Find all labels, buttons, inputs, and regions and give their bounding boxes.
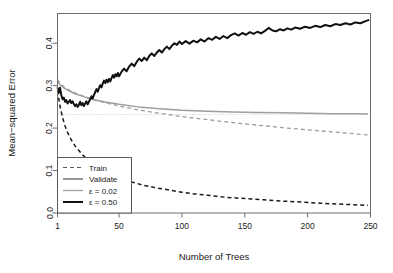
x-tick-label: 1 xyxy=(55,221,60,231)
x-tick-label: 200 xyxy=(301,221,315,231)
legend-label: ε = 0.02 xyxy=(89,187,118,196)
y-tick-label: 0.1 xyxy=(45,164,55,176)
legend-label: Validate xyxy=(89,175,118,184)
y-tick-label: 0.4 xyxy=(45,37,55,49)
y-tick-label: 0.2 xyxy=(45,122,55,134)
y-axis-title: Mean−squared Error xyxy=(6,69,17,156)
chart-legend: TrainValidateε = 0.02ε = 0.50 xyxy=(58,158,132,214)
legend-label: ε = 0.50 xyxy=(89,198,118,207)
chart-background xyxy=(0,0,393,273)
x-tick-label: 50 xyxy=(114,221,124,231)
mse-vs-trees-line-chart: 150100150200250 0.00.10.20.30.4 Number o… xyxy=(0,0,393,273)
x-tick-label: 250 xyxy=(363,221,377,231)
x-axis-title: Number of Trees xyxy=(179,251,250,262)
x-tick-label: 100 xyxy=(175,221,189,231)
y-tick-label: 0.0 xyxy=(45,207,55,219)
x-tick-label: 150 xyxy=(238,221,252,231)
y-tick-label: 0.3 xyxy=(45,79,55,91)
legend-label: Train xyxy=(89,164,107,173)
chart-figure: 150100150200250 0.00.10.20.30.4 Number o… xyxy=(0,0,393,273)
